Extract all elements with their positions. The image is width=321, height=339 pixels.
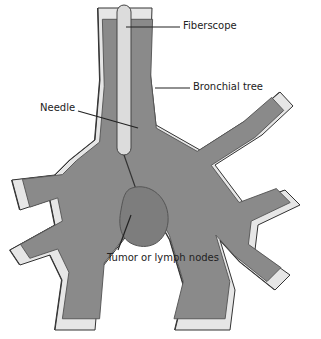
fiberscope-label: Fiberscope — [183, 20, 237, 31]
bronchial-tree-illustration — [0, 0, 321, 339]
bronchial-tree-label: Bronchial tree — [193, 81, 263, 92]
needle-label: Needle — [40, 102, 75, 113]
tumor-label: Tumor or lymph nodes — [107, 252, 219, 263]
bronchoscopy-diagram: Fiberscope Bronchial tree Needle Tumor o… — [0, 0, 321, 339]
